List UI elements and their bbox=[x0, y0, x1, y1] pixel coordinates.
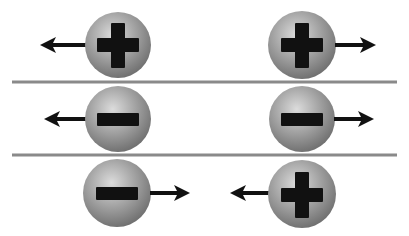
row-negative-negative-repel bbox=[44, 86, 374, 152]
positive-charge-sphere bbox=[268, 160, 336, 228]
arrow-right-icon bbox=[150, 185, 190, 201]
negative-charge-sphere bbox=[83, 159, 151, 227]
row-negative-positive-attract bbox=[83, 159, 336, 228]
negative-charge-sphere bbox=[85, 86, 151, 152]
minus-icon bbox=[97, 113, 139, 126]
minus-icon bbox=[281, 113, 323, 126]
row-positive-positive-repel bbox=[40, 11, 376, 79]
arrow-right-icon bbox=[335, 37, 376, 53]
arrow-left-icon bbox=[230, 185, 270, 201]
charge-interaction-diagram bbox=[0, 0, 409, 236]
negative-charge-sphere bbox=[269, 86, 335, 152]
arrow-right-icon bbox=[334, 111, 374, 127]
minus-icon bbox=[96, 187, 138, 200]
arrow-left-icon bbox=[40, 37, 86, 53]
positive-charge-sphere bbox=[85, 12, 151, 78]
positive-charge-sphere bbox=[268, 11, 336, 79]
arrow-left-icon bbox=[44, 111, 86, 127]
